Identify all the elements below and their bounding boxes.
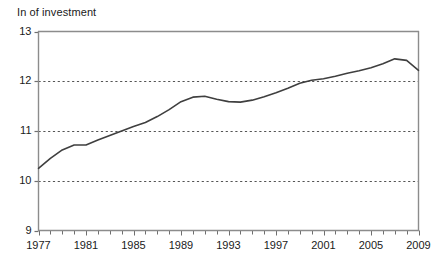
chart-figure: In of investment 910111213 1977198119851…: [0, 0, 447, 260]
y-tick-label-13: 13: [6, 26, 32, 37]
x-tick-label-1977: 1977: [19, 240, 59, 251]
y-tick-label-11: 11: [6, 125, 32, 136]
x-minor-ticks-group: [40, 231, 420, 236]
x-tick-label-1981: 1981: [66, 240, 106, 251]
x-tick-label-2009: 2009: [399, 240, 439, 251]
plot-area: [0, 0, 447, 260]
x-tick-label-1993: 1993: [209, 240, 249, 251]
x-tick-label-1997: 1997: [256, 240, 296, 251]
data-series-line: [39, 59, 419, 168]
y-tick-label-12: 12: [6, 75, 32, 86]
x-tick-label-2001: 2001: [304, 240, 344, 251]
y-tick-label-9: 9: [6, 225, 32, 236]
x-tick-label-1985: 1985: [114, 240, 154, 251]
gridlines-group: [39, 82, 419, 182]
x-tick-label-1989: 1989: [161, 240, 201, 251]
x-tick-label-2005: 2005: [351, 240, 391, 251]
y-tick-label-10: 10: [6, 175, 32, 186]
